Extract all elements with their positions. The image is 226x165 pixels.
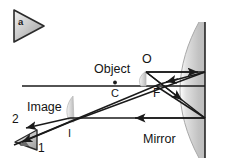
ray-2-label: 2 bbox=[12, 113, 19, 125]
focal-point-label: F bbox=[153, 87, 160, 99]
image-point-label: I bbox=[68, 128, 71, 139]
center-of-curvature-point bbox=[113, 81, 117, 85]
ray-diagram-canvas bbox=[0, 0, 226, 165]
mirror-label: Mirror bbox=[143, 133, 176, 146]
image-label: Image bbox=[27, 101, 62, 114]
ray-1-label: 1 bbox=[38, 142, 45, 154]
ray-diagram-figure: a Object Image Mirror O C F I 1 2 bbox=[0, 0, 226, 165]
ray-1-image-arrow bbox=[22, 122, 70, 142]
object-label: Object bbox=[94, 63, 130, 76]
panel-letter-label: a bbox=[18, 16, 23, 27]
center-of-curvature-label: C bbox=[111, 88, 119, 99]
object-figure bbox=[139, 71, 146, 86]
mirror-body bbox=[180, 22, 205, 158]
ray-2-image-arrow bbox=[26, 118, 70, 128]
object-point-label: O bbox=[142, 53, 152, 66]
